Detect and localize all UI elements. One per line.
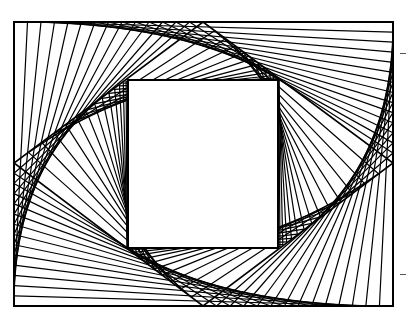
margin-tick-mark	[400, 274, 406, 275]
margin-tick-mark	[400, 53, 406, 54]
spiral-line-art	[0, 0, 409, 325]
inner-square	[128, 80, 278, 248]
